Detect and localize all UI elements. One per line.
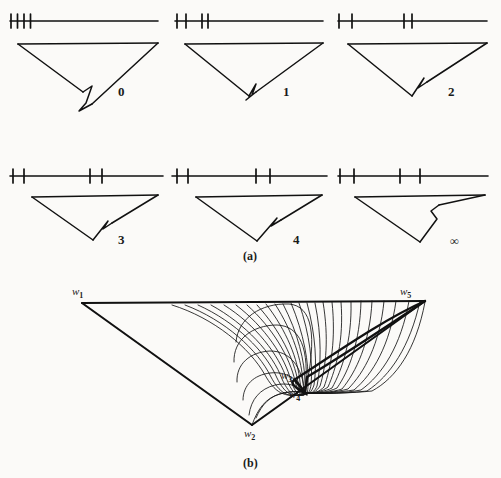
panel-0-left-edge: [18, 44, 83, 92]
panel-4-graphic: [172, 169, 327, 241]
panel-1-left-edge: [185, 44, 249, 96]
panel-1-notch: [246, 84, 256, 100]
panel-2-notch: [412, 78, 427, 96]
caption-a: (a): [243, 249, 257, 264]
panel-3-label: 3: [118, 232, 125, 248]
vertex-label-w4: w4: [289, 388, 300, 403]
spiral-arc: [305, 302, 425, 393]
part-b-inner-wedge: [293, 301, 425, 393]
panel-3-notch: [93, 221, 112, 240]
vertex-label-w5: w5: [400, 285, 411, 300]
panel-5-notch: [420, 205, 439, 242]
part-b-spiral-family-lower: [234, 304, 312, 425]
part-b-spiral-family: [172, 301, 425, 396]
panel-5-left-edge: [355, 197, 420, 242]
part-b-group: [82, 301, 425, 425]
panel-4-notch: [257, 218, 281, 241]
panel-1-right-edge: [256, 43, 323, 92]
panel-3-right-edge: [112, 195, 158, 223]
panel-1-top-edge: [185, 43, 323, 44]
vertex-label-w5-sub: 5: [407, 291, 411, 300]
figure-container: 0 1 2 3 4 ∞ (a) (b) w1 w2 w3 w4 w5: [0, 0, 501, 478]
panel-3-graphic: [10, 169, 163, 240]
panel-5-graphic: [338, 169, 488, 242]
panel-0-graphic: [10, 14, 158, 111]
panel-1-graphic: [175, 14, 323, 100]
panel-2-left-edge: [348, 44, 412, 96]
panel-5-right-edge: [439, 195, 485, 205]
edge-w1-w5: [82, 301, 425, 303]
panel-0-top-edge: [18, 43, 158, 44]
panel-4-top-edge: [196, 195, 322, 197]
panel-4-label: 4: [293, 232, 300, 248]
figure-canvas: [0, 0, 501, 478]
panel-3-left-edge: [32, 197, 93, 240]
panel-0-right-edge: [92, 43, 158, 104]
panel-2-graphic: [338, 14, 487, 96]
panel-4-right-edge: [281, 195, 322, 220]
panel-4-left-edge: [196, 197, 257, 241]
vertex-label-w1-sub: 1: [79, 291, 83, 300]
panel-2-right-edge: [427, 43, 487, 82]
part-b-outline: [82, 301, 425, 425]
vertex-label-w2: w2: [244, 427, 255, 442]
panel-5-top-edge: [355, 195, 485, 197]
vertex-label-w2-sub: 2: [251, 433, 255, 442]
vertex-label-w3: w3: [281, 369, 292, 384]
vertex-label-w1: w1: [72, 285, 83, 300]
vertex-label-w4-sub: 4: [296, 394, 300, 403]
panel-3-top-edge: [32, 195, 158, 197]
panel-2-label: 2: [448, 84, 455, 100]
panel-0-label: 0: [118, 84, 125, 100]
panel-2-top-edge: [348, 43, 487, 44]
vertex-label-w3-sub: 3: [288, 375, 292, 384]
panel-1-label: 1: [283, 84, 290, 100]
panel-5-label: ∞: [450, 234, 459, 249]
caption-b: (b): [243, 456, 258, 471]
part-a-group: [10, 14, 488, 242]
spiral-arc: [305, 302, 333, 394]
